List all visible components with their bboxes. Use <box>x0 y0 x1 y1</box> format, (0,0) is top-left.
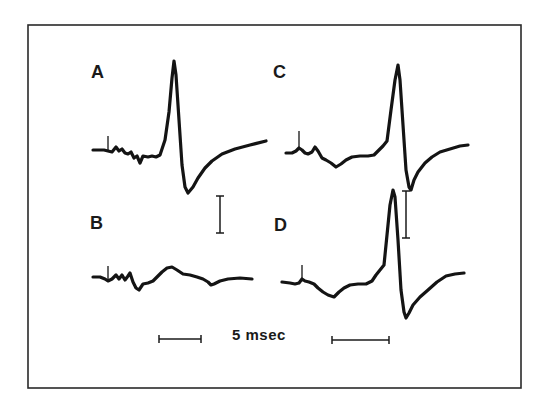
trace-a <box>93 61 266 193</box>
panel-label-b: B <box>90 213 103 233</box>
trace-b <box>93 267 252 290</box>
trace-d <box>282 190 464 318</box>
panel-label-d: D <box>274 215 287 235</box>
panel-label-a: A <box>91 62 104 82</box>
time-scale-label: 5 msec <box>232 326 286 343</box>
time-scale-bar-right <box>332 336 389 344</box>
amplitude-scale-bar-left <box>216 196 224 233</box>
figure: A B C D 5 msec <box>0 0 547 406</box>
amplitude-scale-bar-right <box>402 191 410 238</box>
time-scale-bar-left <box>159 335 201 343</box>
panel-label-c: C <box>273 62 286 82</box>
trace-c <box>286 65 468 190</box>
